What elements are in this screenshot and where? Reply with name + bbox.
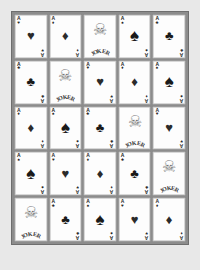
- ace-of-diamonds[interactable]: A♦A♦♦: [152, 197, 186, 242]
- joker-card[interactable]: ☠JOKER: [118, 106, 152, 151]
- card-suit-icon: ♣: [15, 75, 47, 88]
- card-corner-index-br: A♥: [110, 94, 113, 103]
- ace-of-spades[interactable]: A♠A♠♠: [118, 14, 152, 59]
- joker-face-icon: ☠: [153, 159, 185, 175]
- card-suit-mini-icon: ♥: [17, 21, 20, 26]
- card-corner-index-br: A♦: [180, 231, 183, 240]
- card-suit-icon: ♥: [15, 30, 47, 43]
- card-suit-mini-icon: ♥: [52, 158, 55, 163]
- card-corner-index-tl: A♠: [155, 62, 158, 71]
- ace-of-hearts[interactable]: A♥A♥♥: [14, 14, 48, 59]
- joker-card[interactable]: ☠JOKER: [49, 60, 83, 105]
- card-corner-index-tl: A♦: [121, 62, 124, 71]
- card-suit-mini-icon: ♣: [86, 112, 89, 117]
- card-suit-icon: ♥: [84, 75, 116, 88]
- card-corner-index-tl: A♣: [121, 153, 124, 162]
- ace-of-diamonds[interactable]: A♦A♦♦: [49, 14, 83, 59]
- card-suit-icon: ♠: [15, 165, 47, 182]
- card-corner-index-br: A♠: [145, 48, 148, 57]
- card-suit-icon: ♦: [50, 30, 82, 43]
- ace-of-clubs[interactable]: A♣A♣♣: [49, 197, 83, 242]
- ace-of-hearts[interactable]: A♥A♥♥: [118, 197, 152, 242]
- card-suit-mini-icon: ♥: [180, 139, 183, 144]
- joker-card[interactable]: ☠JOKER: [152, 151, 186, 196]
- card-corner-index-br: A♦: [145, 94, 148, 103]
- card-corner-index-tl: A♥: [17, 16, 20, 25]
- card-corner-index-tl: A♥: [86, 62, 89, 71]
- card-suit-icon: ♥: [50, 167, 82, 180]
- card-suit-mini-icon: ♦: [52, 21, 55, 26]
- card-suit-mini-icon: ♣: [121, 158, 124, 163]
- joker-label-letter: R: [104, 49, 111, 56]
- card-corner-index-tl: A♠: [52, 108, 55, 117]
- card-suit-mini-icon: ♣: [180, 48, 183, 53]
- card-suit-icon: ♠: [119, 28, 151, 45]
- ace-of-clubs[interactable]: A♣A♣♣: [14, 60, 48, 105]
- card-suit-icon: ♦: [84, 167, 116, 180]
- ace-of-clubs[interactable]: A♣A♣♣: [152, 14, 186, 59]
- card-corner-index-tl: A♥: [155, 108, 158, 117]
- ace-of-diamonds[interactable]: A♦A♦♦: [118, 60, 152, 105]
- card-corner-index-tl: A♠: [17, 153, 20, 162]
- ace-of-spades[interactable]: A♠A♠♠: [152, 60, 186, 105]
- ace-of-spades[interactable]: A♠A♠♠: [49, 106, 83, 151]
- card-suit-mini-icon: ♠: [76, 139, 79, 144]
- joker-label: JOKER: [15, 223, 47, 237]
- card-corner-index-tl: A♣: [86, 108, 89, 117]
- card-rank: A: [110, 143, 113, 148]
- card-suit-icon: ♣: [119, 167, 151, 180]
- card-suit-mini-icon: ♠: [86, 204, 89, 209]
- joker-card[interactable]: ☠JOKER: [83, 14, 117, 59]
- playing-card-grid: A♥A♥♥A♦A♦♦☠JOKERA♠A♠♠A♣A♣♣A♣A♣♣☠JOKERA♥A…: [11, 11, 189, 245]
- card-suit-icon: ♠: [50, 119, 82, 136]
- ace-of-clubs[interactable]: A♣A♣♣: [118, 151, 152, 196]
- ace-of-diamonds[interactable]: A♦A♦♦: [14, 106, 48, 151]
- card-suit-icon: ♣: [84, 121, 116, 134]
- card-suit-mini-icon: ♠: [121, 21, 124, 26]
- card-corner-index-br: A♥: [145, 231, 148, 240]
- card-suit-mini-icon: ♣: [145, 185, 148, 190]
- card-corner-index-br: A♥: [76, 185, 79, 194]
- card-suit-mini-icon: ♣: [52, 204, 55, 209]
- card-suit-icon: ♦: [15, 121, 47, 134]
- card-suit-icon: ♦: [153, 213, 185, 226]
- ace-of-diamonds[interactable]: A♦A♦♦: [83, 151, 117, 196]
- ace-of-spades[interactable]: A♠A♠♠: [14, 151, 48, 196]
- ace-of-hearts[interactable]: A♥A♥♥: [83, 60, 117, 105]
- card-rank: A: [180, 143, 183, 148]
- joker-label: JOKER: [119, 132, 151, 146]
- card-suit-mini-icon: ♥: [145, 231, 148, 236]
- card-suit-icon: ♠: [153, 73, 185, 90]
- card-suit-mini-icon: ♥: [155, 112, 158, 117]
- ace-of-spades[interactable]: A♠A♠♠: [83, 197, 117, 242]
- card-suit-mini-icon: ♣: [155, 21, 158, 26]
- card-suit-mini-icon: ♦: [155, 204, 158, 209]
- card-corner-index-br: A♦: [41, 139, 44, 148]
- card-corner-index-br: A♣: [180, 48, 183, 57]
- card-corner-index-br: A♥: [180, 139, 183, 148]
- card-suit-mini-icon: ♦: [17, 112, 20, 117]
- card-suit-mini-icon: ♣: [17, 66, 20, 71]
- ace-of-clubs[interactable]: A♣A♣♣: [83, 106, 117, 151]
- card-corner-index-br: A♠: [41, 185, 44, 194]
- ace-of-hearts[interactable]: A♥A♥♥: [152, 106, 186, 151]
- joker-card[interactable]: ☠JOKER: [14, 197, 48, 242]
- card-corner-index-tl: A♦: [86, 153, 89, 162]
- card-suit-mini-icon: ♣: [76, 231, 79, 236]
- card-corner-index-tl: A♣: [17, 62, 20, 71]
- card-corner-index-br: A♣: [145, 185, 148, 194]
- card-suit-mini-icon: ♠: [180, 94, 183, 99]
- card-suit-mini-icon: ♥: [121, 204, 124, 209]
- card-corner-index-br: A♣: [110, 139, 113, 148]
- ace-of-hearts[interactable]: A♥A♥♥: [49, 151, 83, 196]
- card-suit-icon: ♣: [153, 30, 185, 43]
- joker-label: JOKER: [84, 40, 116, 54]
- joker-face-icon: ☠: [50, 68, 82, 84]
- card-suit-mini-icon: ♥: [76, 185, 79, 190]
- card-corner-index-tl: A♦: [52, 16, 55, 25]
- card-suit-icon: ♥: [153, 121, 185, 134]
- card-corner-index-br: A♠: [76, 139, 79, 148]
- card-corner-index-tl: A♥: [52, 153, 55, 162]
- card-corner-index-tl: A♠: [86, 199, 89, 208]
- card-corner-index-tl: A♦: [155, 199, 158, 208]
